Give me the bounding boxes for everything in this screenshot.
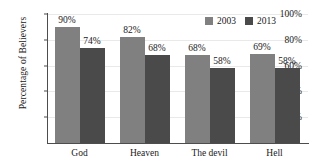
legend-entry-2013: 2013 [245, 16, 276, 26]
bar-heaven-2013 [145, 55, 170, 143]
bar-value-label: 90% [58, 15, 75, 25]
y-tick-mark [44, 117, 48, 118]
bar-heaven-2003 [120, 37, 145, 143]
bar-chart: Percentage of Believers 20%40%60%80%100%… [0, 0, 316, 167]
y-tick-mark [44, 91, 48, 92]
bar-value-label: 68% [148, 43, 165, 53]
chart-legend: 20032013 [203, 15, 278, 27]
bar-hell-2003 [250, 54, 275, 143]
bar-the-devil-2003 [185, 55, 210, 143]
legend-label: 2003 [217, 16, 236, 26]
plot-area: 20%40%60%80%100% 90%74%82%68%68%58%69%58… [48, 14, 308, 143]
y-tick-mark [44, 14, 48, 15]
y-tick-label: 100% [280, 9, 302, 19]
category-label-hell: Hell [266, 148, 282, 158]
legend-label: 2013 [257, 16, 276, 26]
bar-value-label: 74% [83, 36, 100, 46]
legend-entry-2003: 2003 [205, 16, 236, 26]
bar-value-label: 58% [213, 56, 230, 66]
category-label-the-devil: The devil [191, 148, 227, 158]
x-axis-line [47, 143, 309, 144]
y-tick-mark [44, 39, 48, 40]
y-tick-mark [44, 65, 48, 66]
legend-swatch-icon [245, 17, 253, 25]
bar-hell-2013 [275, 68, 300, 143]
y-axis-title: Percentage of Believers [18, 0, 28, 133]
bar-value-label: 82% [123, 25, 140, 35]
bar-value-label: 69% [253, 42, 270, 52]
bar-the-devil-2013 [210, 68, 235, 143]
bar-value-label: 68% [188, 43, 205, 53]
category-label-god: God [71, 148, 87, 158]
category-label-heaven: Heaven [130, 148, 159, 158]
legend-swatch-icon [205, 17, 213, 25]
y-tick-label: 80% [285, 35, 302, 45]
bar-god-2013 [80, 48, 105, 143]
bar-value-label: 58% [278, 56, 295, 66]
bar-god-2003 [55, 27, 80, 143]
